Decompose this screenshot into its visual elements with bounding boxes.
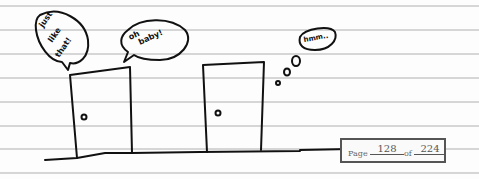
bubble-1-line-2: like [46, 25, 63, 44]
right-door-knob [216, 111, 221, 116]
page-prefix-label: Page [348, 149, 368, 158]
bubble-1-line-1: just [37, 10, 55, 30]
page-indicator: Page 128 of 224 [340, 138, 446, 163]
thought-dot-small [276, 81, 280, 85]
ground-line [45, 149, 350, 160]
thought-dot-medium [284, 69, 290, 76]
bubble-2-line-2: baby! [137, 28, 164, 47]
total-pages-number: 224 [414, 143, 446, 155]
thought-text: hmm.. [303, 32, 329, 44]
left-door [70, 67, 132, 158]
left-door-knob [82, 115, 87, 120]
thought-dot-large [292, 56, 300, 66]
right-door [203, 62, 264, 152]
page-separator-label: of [404, 149, 412, 158]
current-page-number: 128 [370, 143, 404, 155]
